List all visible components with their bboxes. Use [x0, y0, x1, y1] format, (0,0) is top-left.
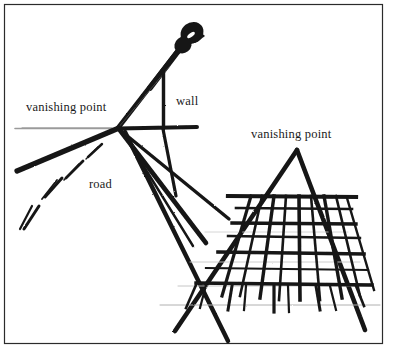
wall-base-line	[118, 127, 197, 129]
road-label: road	[89, 178, 112, 191]
vanishing-point-right-label: vanishing point	[251, 128, 331, 141]
facade-floor-4	[218, 252, 364, 254]
wall-label: wall	[176, 95, 198, 108]
facade-floor-6	[196, 283, 372, 285]
perspective-drawing	[0, 0, 399, 357]
facade-floor-1	[236, 208, 352, 209]
figure-canvas: vanishing point vanishing point wall roa…	[0, 0, 399, 357]
facade-leg-6	[288, 286, 289, 312]
facade-vertical-5	[299, 196, 300, 300]
facade-floor-2	[232, 223, 356, 224]
vanishing-point-left-label: vanishing point	[26, 101, 106, 114]
